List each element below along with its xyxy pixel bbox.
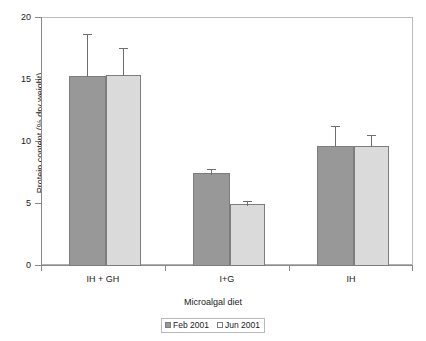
error-bar-cap-feb-2001-i-g [207,169,216,170]
legend-entry-jun-2001: Jun 2001 [217,320,260,330]
bar-jun-2001-i-g [230,204,265,266]
y-axis-tick-label: 15 [1,75,31,84]
x-axis-tick [412,266,413,271]
x-axis-tick [41,266,42,271]
y-axis-tick-label: 10 [1,137,31,146]
error-bar-feb-2001-ih-gh [87,34,88,77]
legend: Feb 2001 Jun 2001 [0,318,426,333]
error-bar-cap-feb-2001-ih [331,126,340,127]
bar-feb-2001-ih-gh [69,76,106,266]
error-bar-cap-feb-2001-ih-gh [83,34,92,35]
y-axis-tick-label: 0 [1,261,31,270]
error-bar-cap-jun-2001-ih-gh [119,48,128,49]
x-axis-tick [165,266,166,271]
x-axis-category-label-ih: IH [291,274,411,284]
y-axis-tick-label: 20 [1,13,31,22]
bar-feb-2001-ih [317,146,354,266]
error-bar-jun-2001-ih [371,135,372,147]
error-bar-jun-2001-ih-gh [123,48,124,76]
y-axis-tick-label: 5 [1,199,31,208]
error-bar-cap-jun-2001-ih [367,135,376,136]
bar-jun-2001-ih-gh [106,75,141,266]
legend-label-feb-2001: Feb 2001 [173,320,209,330]
error-bar-cap-jun-2001-i-g [243,201,252,202]
error-bar-feb-2001-ih [335,126,336,147]
x-axis-tick [289,266,290,271]
x-axis-category-label-i-g: I+G [167,274,287,284]
x-axis-title: Microalgal diet [0,297,426,307]
legend-swatch-dark-square-icon [165,322,171,328]
legend-swatch-light-square-icon [217,322,223,328]
legend-entry-feb-2001: Feb 2001 [165,320,209,330]
bar-feb-2001-i-g [193,173,230,266]
legend-label-jun-2001: Jun 2001 [225,320,260,330]
protein-content-bar-chart: 20 15 10 5 0 Protein content (% dry weig… [0,0,426,341]
legend-box: Feb 2001 Jun 2001 [161,318,265,333]
y-axis-line [41,17,42,266]
x-axis-category-label-ih-gh: IH + GH [43,274,163,284]
bar-jun-2001-ih [354,146,389,266]
